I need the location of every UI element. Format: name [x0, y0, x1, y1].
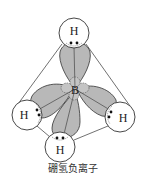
hydrogen-label: H	[119, 111, 128, 125]
hydrogen-label: H	[70, 24, 79, 38]
electron-dot	[38, 114, 41, 117]
hydrogen-bottom: H	[45, 132, 75, 162]
hydrogen-top: H	[59, 18, 89, 48]
hydrogen-label: H	[20, 108, 29, 122]
hydrogen-label: H	[56, 143, 65, 157]
electron-dot	[76, 42, 79, 45]
borohydride-orbital-diagram: B H H H H	[0, 0, 145, 184]
hydrogen-right: H	[105, 102, 135, 132]
electron-dot	[110, 111, 113, 114]
electron-dot	[36, 109, 39, 112]
electron-dot	[70, 42, 73, 45]
electron-dot	[62, 137, 65, 140]
hydrogen-left: H	[12, 100, 42, 130]
electron-dot	[108, 116, 111, 119]
electron-dot	[56, 137, 59, 140]
diagram-caption: 硼氢负离子	[0, 160, 145, 175]
boron-atom-label: B	[71, 83, 79, 97]
